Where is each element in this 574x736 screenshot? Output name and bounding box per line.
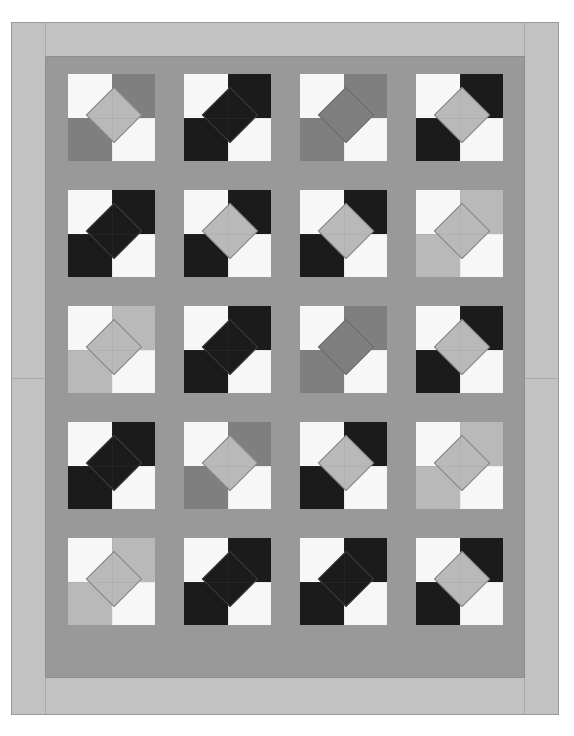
block-horizontal-seam	[300, 466, 387, 467]
quilt-block-r4c3	[300, 422, 387, 509]
block-horizontal-seam	[300, 582, 387, 583]
quilt-block-r2c4	[416, 190, 503, 277]
quilt-block-r3c2	[184, 306, 271, 393]
quilt-block-r3c1	[68, 306, 155, 393]
block-horizontal-seam	[68, 582, 155, 583]
block-horizontal-seam	[416, 582, 503, 583]
quilt-block-r4c2	[184, 422, 271, 509]
quilt-block-r1c2	[184, 74, 271, 161]
block-horizontal-seam	[416, 118, 503, 119]
block-horizontal-seam	[68, 234, 155, 235]
block-horizontal-seam	[184, 582, 271, 583]
quilt-block-r1c4	[416, 74, 503, 161]
quilt-block-r4c1	[68, 422, 155, 509]
quilt-block-field	[68, 74, 504, 657]
block-horizontal-seam	[68, 118, 155, 119]
block-horizontal-seam	[416, 466, 503, 467]
quilt-canvas	[0, 0, 574, 736]
quilt-block-r3c4	[416, 306, 503, 393]
quilt-block-r5c3	[300, 538, 387, 625]
block-horizontal-seam	[184, 350, 271, 351]
block-horizontal-seam	[68, 350, 155, 351]
quilt-block-r4c4	[416, 422, 503, 509]
block-horizontal-seam	[184, 234, 271, 235]
block-horizontal-seam	[416, 350, 503, 351]
quilt-block-r2c3	[300, 190, 387, 277]
quilt-block-r5c2	[184, 538, 271, 625]
quilt-block-r1c1	[68, 74, 155, 161]
quilt-block-r2c2	[184, 190, 271, 277]
quilt-block-r1c3	[300, 74, 387, 161]
block-horizontal-seam	[300, 234, 387, 235]
block-horizontal-seam	[184, 466, 271, 467]
block-horizontal-seam	[300, 118, 387, 119]
quilt-block-r2c1	[68, 190, 155, 277]
block-horizontal-seam	[68, 466, 155, 467]
quilt-block-r5c1	[68, 538, 155, 625]
block-horizontal-seam	[300, 350, 387, 351]
quilt-block-r3c3	[300, 306, 387, 393]
quilt-block-r5c4	[416, 538, 503, 625]
block-horizontal-seam	[184, 118, 271, 119]
block-horizontal-seam	[416, 234, 503, 235]
